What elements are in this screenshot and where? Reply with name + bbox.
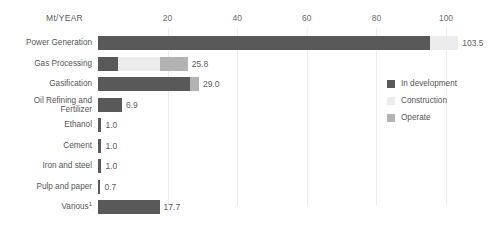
bar-segment-in-development [98, 57, 118, 71]
bar-segment-construction [430, 36, 458, 50]
bar[interactable] [98, 57, 188, 71]
chart-row: Iron and steel1.0 [0, 156, 501, 176]
chart-row: Pulp and paper0.7 [0, 177, 501, 197]
legend-label: Construction [401, 96, 447, 105]
category-label: Power Generation [0, 38, 92, 48]
axis-tick-label-100: 100 [439, 13, 453, 23]
bar-chart: Mt/YEAR 20406080100 Power Generation103.… [0, 0, 501, 228]
axis-tick-label-60: 60 [302, 13, 311, 23]
category-label: Iron and steel [0, 161, 92, 171]
bar-value-label: 6.9 [126, 100, 138, 110]
chart-row: Various117.7 [0, 197, 501, 217]
chart-row: Gas Processing25.8 [0, 54, 501, 74]
axis-unit-label: Mt/YEAR [46, 13, 83, 23]
legend-item[interactable]: Construction [387, 93, 457, 108]
bar-segment-in-development [98, 200, 160, 214]
legend-swatch-icon [387, 114, 395, 122]
legend-item[interactable]: Operate [387, 110, 457, 125]
legend-label: In development [401, 79, 457, 88]
bar-value-label: 29.0 [203, 79, 220, 89]
axis-tick-label-80: 80 [372, 13, 381, 23]
legend-label: Operate [401, 113, 431, 122]
category-label: Oil Refining andFertilizer [0, 95, 92, 114]
bar-value-label: 103.5 [462, 38, 483, 48]
legend-item[interactable]: In development [387, 76, 457, 91]
bar-segment-in-development [98, 77, 190, 91]
category-label: Various1 [0, 202, 92, 212]
bar-value-label: 17.7 [164, 202, 181, 212]
bar-segment-in-development [98, 36, 430, 50]
category-label: Ethanol [0, 120, 92, 130]
bar-segment-in-development [98, 139, 101, 153]
bar-segment-in-development [98, 98, 122, 112]
chart-legend: In developmentConstructionOperate [387, 76, 457, 127]
bar-value-label: 1.0 [105, 161, 117, 171]
category-label: Gas Processing [0, 59, 92, 69]
bar[interactable] [98, 200, 160, 214]
bar-segment-in-development [98, 118, 101, 132]
axis-tick-label-40: 40 [232, 13, 241, 23]
bar-segment-construction [118, 57, 160, 71]
bar[interactable] [98, 118, 101, 132]
bar-segment-operate [160, 57, 188, 71]
bar-value-label: 1.0 [105, 120, 117, 130]
bar-value-label: 1.0 [105, 141, 117, 151]
bar[interactable] [98, 159, 101, 173]
category-label: Gasification [0, 79, 92, 89]
bar-value-label: 0.7 [104, 182, 116, 192]
bar[interactable] [98, 98, 122, 112]
chart-row: Cement1.0 [0, 136, 501, 156]
legend-swatch-icon [387, 97, 395, 105]
legend-swatch-icon [387, 80, 395, 88]
chart-row: Power Generation103.5 [0, 33, 501, 53]
bar[interactable] [98, 180, 100, 194]
axis-tick-label-20: 20 [163, 13, 172, 23]
bar-segment-operate [190, 77, 199, 91]
bar-value-label: 25.8 [192, 59, 209, 69]
bar[interactable] [98, 36, 458, 50]
bar-segment-in-development [98, 180, 100, 194]
bar[interactable] [98, 139, 101, 153]
category-label: Pulp and paper [0, 182, 92, 192]
category-label: Cement [0, 141, 92, 151]
bar[interactable] [98, 77, 199, 91]
bar-segment-in-development [98, 159, 101, 173]
